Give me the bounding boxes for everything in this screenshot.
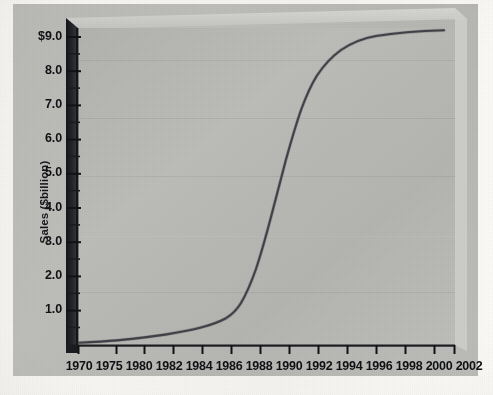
y-tick-label-2: 2.0 <box>0 268 62 282</box>
y-tick-label-8: 8.0 <box>0 63 62 77</box>
x-tick-label-1990: 1990 <box>272 359 306 373</box>
x-tick-label-1992: 1992 <box>302 359 336 373</box>
plot-area <box>78 28 455 345</box>
y-tick-label-5: 5.0 <box>0 165 62 179</box>
plot-top-bevel <box>66 8 467 29</box>
x-tick-label-2002: 2002 <box>452 359 486 373</box>
x-tick-label-1996: 1996 <box>362 359 396 373</box>
screenshot-root: Sales ($billion) $9.0 8.0 7.0 6.0 5.0 4.… <box>0 0 493 395</box>
x-tick-label-1994: 1994 <box>332 359 366 373</box>
x-tick-label-1988: 1988 <box>242 359 276 373</box>
chart-canvas <box>0 0 493 395</box>
y-tick-label-7: 7.0 <box>0 97 62 111</box>
y-tick-label-3: 3.0 <box>0 234 62 248</box>
x-axis-wall-foot <box>66 345 78 353</box>
x-tick-label-1980: 1980 <box>122 359 156 373</box>
x-tick-label-2000: 2000 <box>422 359 456 373</box>
x-tick-label-1970: 1970 <box>62 359 96 373</box>
x-tick-label-1975: 1975 <box>92 359 126 373</box>
sales-line-chart: Sales ($billion) $9.0 8.0 7.0 6.0 5.0 4.… <box>0 0 493 395</box>
plot-right-bevel <box>455 8 467 351</box>
x-tick-label-1998: 1998 <box>392 359 426 373</box>
x-tick-label-1982: 1982 <box>152 359 186 373</box>
y-axis-line <box>76 28 78 346</box>
y-tick-label-6: 6.0 <box>0 131 62 145</box>
y-tick-label-4: 4.0 <box>0 200 62 214</box>
y-tick-label-9: $9.0 <box>0 29 62 43</box>
x-tick-label-1986: 1986 <box>212 359 246 373</box>
x-tick-label-1984: 1984 <box>182 359 216 373</box>
y-tick-label-1: 1.0 <box>0 302 62 316</box>
